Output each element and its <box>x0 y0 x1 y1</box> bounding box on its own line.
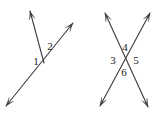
angle-label-3: 3 <box>107 55 119 66</box>
angle-label-1: 1 <box>30 56 42 67</box>
angle-label-4: 4 <box>119 42 131 53</box>
angle-diagram-canvas: 124356 <box>0 0 160 117</box>
angle-label-2: 2 <box>44 41 56 52</box>
angle-label-6: 6 <box>118 67 130 78</box>
angle-label-5: 5 <box>130 55 142 66</box>
line-upper-right-to-lower-left-arrowhead-icon-end <box>100 97 107 106</box>
line-upper-right-to-lower-left-arrowhead-icon-start <box>143 13 150 22</box>
